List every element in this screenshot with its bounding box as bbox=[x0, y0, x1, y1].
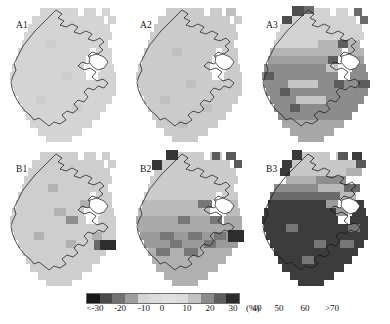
panel-grid: A1 bbox=[0, 0, 390, 288]
colorbar-tick-8: 50 bbox=[275, 303, 284, 313]
figure-root: A1 bbox=[0, 0, 390, 324]
colorbar-swatch-3 bbox=[125, 294, 138, 303]
colorbar-tick-10: >70 bbox=[325, 303, 339, 313]
colorbar-swatch-7 bbox=[176, 294, 189, 303]
colorbar-tick-3: 0 bbox=[160, 303, 165, 313]
colorbar-tick-1: -20 bbox=[114, 303, 126, 313]
colorbar-tick-6: 30 bbox=[229, 303, 238, 313]
colorbar-tick-4: 10 bbox=[183, 303, 192, 313]
colorbar-swatch-2 bbox=[112, 294, 125, 303]
panel-a3: A3 bbox=[252, 0, 382, 144]
panel-b1: B1 bbox=[0, 144, 130, 288]
colorbar-swatch-9 bbox=[201, 294, 214, 303]
panel-a2: A2 bbox=[126, 0, 256, 144]
colorbar-tick-labels: <-30 -20 -10 0 10 20 30 40 50 60 >70 bbox=[62, 303, 332, 317]
colorbar-swatch-11 bbox=[226, 294, 239, 303]
colorbar-swatch-8 bbox=[188, 294, 201, 303]
colorbar-swatch-1 bbox=[100, 294, 113, 303]
legend: <-30 -20 -10 0 10 20 30 40 50 60 >70 (%) bbox=[0, 288, 390, 324]
panel-label-b2: B2 bbox=[140, 164, 152, 174]
colorbar-swatch-4 bbox=[138, 294, 151, 303]
panel-a1: A1 bbox=[0, 0, 130, 144]
colorbar-tick-5: 20 bbox=[206, 303, 215, 313]
panel-label-a2: A2 bbox=[140, 20, 152, 30]
colorbar-tick-2: -10 bbox=[138, 303, 150, 313]
panel-label-b1: B1 bbox=[16, 164, 28, 174]
panel-label-a1: A1 bbox=[16, 20, 28, 30]
colorbar-swatch-5 bbox=[150, 294, 163, 303]
panel-label-a3: A3 bbox=[266, 20, 278, 30]
panel-b2: B2 bbox=[126, 144, 256, 288]
colorbar-tick-0: <-30 bbox=[86, 303, 103, 313]
colorbar-swatch-0 bbox=[87, 294, 100, 303]
panel-b3: B3 bbox=[252, 144, 382, 288]
panel-label-b3: B3 bbox=[266, 164, 278, 174]
colorbar-unit-label: (%) bbox=[246, 303, 260, 313]
colorbar-swatch-6 bbox=[163, 294, 176, 303]
colorbar-swatch-10 bbox=[214, 294, 227, 303]
colorbar-tick-9: 60 bbox=[301, 303, 310, 313]
